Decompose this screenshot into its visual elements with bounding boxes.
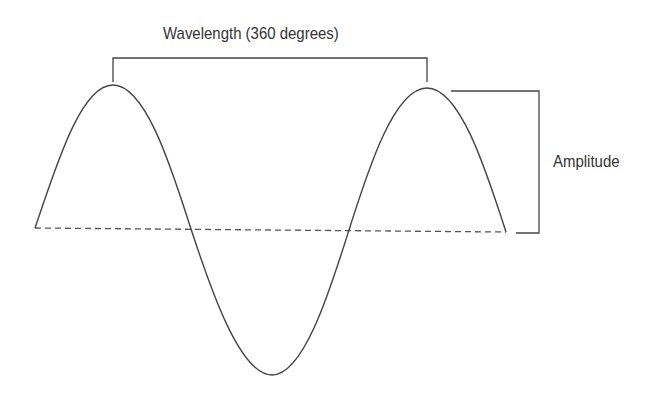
wavelength-bracket [113,58,427,82]
wavelength-label: Wavelength (360 degrees) [163,24,339,44]
amplitude-bracket [451,91,539,233]
amplitude-label: Amplitude [553,152,620,172]
baseline-dashed [35,228,506,232]
sine-wave-diagram [0,0,669,400]
